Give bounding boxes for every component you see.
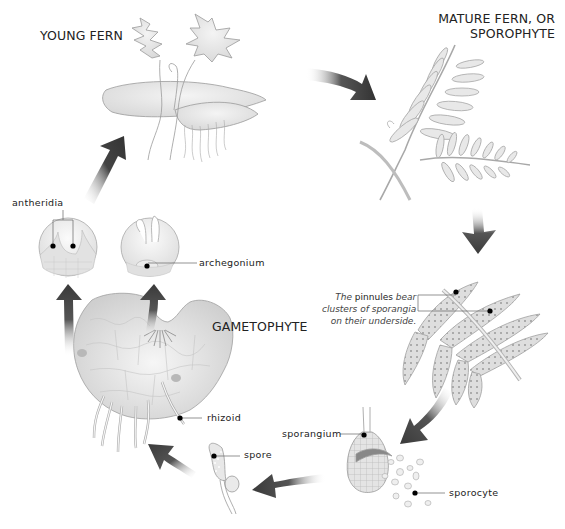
young-fern-title: YOUNG FERN <box>40 28 123 43</box>
gametophyte-title: GAMETOPHYTE <box>212 319 308 334</box>
label-spore: spore <box>244 449 272 460</box>
arrow-to-sporangium <box>400 388 452 444</box>
mature-fern-illustration <box>360 45 530 200</box>
label-archegonium: archegonium <box>199 257 265 268</box>
antheridia-magnified-view <box>39 218 97 278</box>
archegonium-magnified-view <box>121 216 179 277</box>
arrow-to-young-fern <box>84 136 126 204</box>
arrow-to-gametophyte <box>148 444 196 478</box>
sporocytes <box>382 455 431 507</box>
arrow-to-spore <box>252 474 326 498</box>
pinnule-note-suffix: bear <box>393 292 416 302</box>
pinnule-note-term: pinnules <box>355 292 393 302</box>
pinnules-illustration <box>403 282 548 408</box>
pinnule-note-prefix: The <box>335 292 355 302</box>
mature-fern-title-line1: MATURE FERN, OR <box>438 11 555 26</box>
pinnule-note: The pinnules bear clusters of sporangia … <box>322 291 416 327</box>
label-sporocyte: sporocyte <box>449 487 498 498</box>
sporangium-illustration <box>347 407 431 507</box>
pinnule-note-line2: clusters of sporangia <box>322 304 416 314</box>
arrow-to-pinnules <box>462 208 496 254</box>
mature-fern-title: MATURE FERN, OR SPOROPHYTE <box>438 11 555 41</box>
fern-life-cycle-diagram: YOUNG FERN MATURE FERN, OR SPOROPHYTE GA… <box>0 0 565 529</box>
label-rhizoid: rhizoid <box>207 412 241 423</box>
young-fern-illustration <box>103 14 266 162</box>
diagram-canvas <box>0 0 565 529</box>
arrow-to-mature-fern <box>306 68 376 100</box>
mature-fern-title-line2: SPOROPHYTE <box>438 26 555 41</box>
label-antheridia: antheridia <box>12 197 63 208</box>
pinnule-note-line3: on their underside. <box>331 316 417 326</box>
label-sporangium: sporangium <box>282 428 342 439</box>
